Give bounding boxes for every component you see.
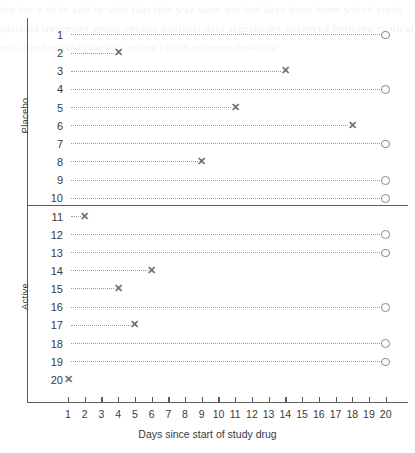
subject-row: 7 <box>27 135 408 153</box>
x-axis-title: Days since start of study drug <box>0 428 415 440</box>
cross-icon: ✕ <box>130 319 140 330</box>
subject-id-label: 17 <box>27 316 63 334</box>
subject-row: 18 <box>27 335 408 353</box>
circle-icon <box>381 85 390 94</box>
subject-row: 3✕ <box>27 62 408 80</box>
x-tick <box>386 397 387 403</box>
circle-icon <box>381 303 390 312</box>
subject-id-label: 7 <box>27 135 63 153</box>
subject-row: 2✕ <box>27 44 408 62</box>
subject-id-label: 5 <box>27 99 63 117</box>
circle-icon <box>381 140 390 149</box>
duration-dashed-line <box>71 198 382 199</box>
subject-id-label: 3 <box>27 62 63 80</box>
x-tick <box>135 397 136 403</box>
arm-label-placebo: Placebo <box>20 25 31 207</box>
subject-id-label: 16 <box>27 298 63 316</box>
subject-row: 4 <box>27 80 408 98</box>
duration-dashed-line <box>71 288 114 289</box>
cross-icon: ✕ <box>347 120 357 131</box>
duration-dashed-line <box>71 107 231 108</box>
x-tick <box>101 397 102 403</box>
cross-icon: ✕ <box>230 102 240 113</box>
x-tick <box>369 397 370 403</box>
cross-icon: ✕ <box>147 265 157 276</box>
duration-dashed-line <box>71 34 382 35</box>
subject-id-label: 15 <box>27 280 63 298</box>
subject-id-label: 1 <box>27 26 63 44</box>
subject-id-label: 19 <box>27 353 63 371</box>
circle-icon <box>381 194 390 203</box>
x-tick <box>152 397 153 403</box>
subject-row: 20✕ <box>27 371 408 389</box>
subject-id-label: 13 <box>27 244 63 262</box>
subject-id-label: 18 <box>27 335 63 353</box>
cross-icon: ✕ <box>197 156 207 167</box>
duration-dashed-line <box>71 343 382 344</box>
circle-icon <box>381 230 390 239</box>
x-tick <box>118 397 119 403</box>
subject-row: 1 <box>27 26 408 44</box>
subject-id-label: 2 <box>27 44 63 62</box>
subject-id-label: 11 <box>27 208 63 226</box>
duration-dashed-line <box>71 180 382 181</box>
x-tick <box>202 397 203 403</box>
duration-dashed-line <box>71 53 114 54</box>
duration-dashed-line <box>71 252 382 253</box>
cross-icon: ✕ <box>63 374 73 385</box>
duration-dashed-line <box>71 143 382 144</box>
duration-dashed-line <box>71 161 198 162</box>
duration-dashed-line <box>71 361 382 362</box>
subject-row: 12 <box>27 226 408 244</box>
subject-id-label: 4 <box>27 80 63 98</box>
circle-icon <box>381 358 390 367</box>
x-tick <box>185 397 186 403</box>
duration-dashed-line <box>71 325 131 326</box>
subject-id-label: 8 <box>27 153 63 171</box>
x-tick-label: 20 <box>376 408 396 420</box>
subject-row: 17✕ <box>27 316 408 334</box>
x-tick <box>68 397 69 403</box>
x-tick <box>269 397 270 403</box>
x-tick <box>285 397 286 403</box>
duration-dashed-line <box>71 234 382 235</box>
x-tick <box>252 397 253 403</box>
duration-dashed-line <box>71 71 281 72</box>
x-tick <box>168 397 169 403</box>
cross-icon: ✕ <box>280 65 290 76</box>
group-divider <box>27 205 408 206</box>
cross-icon: ✕ <box>80 211 90 222</box>
subject-id-label: 6 <box>27 117 63 135</box>
subject-row: 19 <box>27 353 408 371</box>
subject-id-label: 14 <box>27 262 63 280</box>
subject-row: 5✕ <box>27 99 408 117</box>
circle-icon <box>381 31 390 40</box>
plot-area: 12✕3✕45✕6✕78✕91011✕121314✕15✕1617✕181920… <box>27 18 408 403</box>
x-tick <box>319 397 320 403</box>
subject-row: 16 <box>27 298 408 316</box>
x-tick <box>218 397 219 403</box>
x-tick <box>85 397 86 403</box>
x-tick <box>336 397 337 403</box>
duration-dashed-line <box>71 125 348 126</box>
circle-icon <box>381 249 390 258</box>
x-tick <box>235 397 236 403</box>
swimmer-plot-figure: the for a of in and to with that this wa… <box>0 0 415 453</box>
duration-dashed-line <box>71 89 382 90</box>
cross-icon: ✕ <box>113 283 123 294</box>
circle-icon <box>381 176 390 185</box>
subject-row: 9 <box>27 171 408 189</box>
arm-label-active: Active <box>20 206 31 388</box>
subject-row: 14✕ <box>27 262 408 280</box>
subject-id-label: 9 <box>27 171 63 189</box>
cross-icon: ✕ <box>113 47 123 58</box>
subject-row: 13 <box>27 244 408 262</box>
subject-row: 8✕ <box>27 153 408 171</box>
subject-row: 6✕ <box>27 117 408 135</box>
duration-dashed-line <box>71 270 148 271</box>
x-tick <box>352 397 353 403</box>
subject-row: 11✕ <box>27 208 408 226</box>
subject-id-label: 20 <box>27 371 63 389</box>
circle-icon <box>381 339 390 348</box>
subject-row: 15✕ <box>27 280 408 298</box>
